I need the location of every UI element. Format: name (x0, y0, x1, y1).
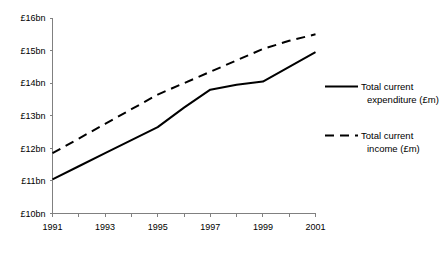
x-tick-label: 2001 (305, 222, 325, 232)
chart-canvas: £10bn£11bn£12bn£13bn£14bn£15bn£16bn 1991… (0, 0, 445, 256)
y-tick-label: £15bn (20, 46, 45, 56)
legend-label-line2: income (£m) (367, 143, 420, 154)
y-tick-label: £10bn (20, 209, 45, 219)
x-tick-label: 1991 (42, 222, 62, 232)
x-axis-ticks: 199119931995199719992001 (42, 214, 325, 232)
legend-label-line1: Total current (361, 130, 414, 141)
x-tick-label: 1993 (95, 222, 115, 232)
legend-label-line2: expenditure (£m) (367, 94, 439, 105)
y-axis-ticks: £10bn£11bn£12bn£13bn£14bn£15bn£16bn (20, 13, 52, 219)
y-tick-label: £12bn (20, 144, 45, 154)
y-tick-label: £13bn (20, 111, 45, 121)
y-tick-label: £14bn (20, 78, 45, 88)
data-series-group (53, 34, 316, 179)
y-axis: £10bn£11bn£12bn£13bn£14bn£15bn£16bn (20, 13, 52, 219)
series-line-income (53, 34, 316, 153)
y-tick-label: £11bn (21, 176, 45, 186)
y-tick-label: £16bn (20, 13, 45, 23)
chart-legend: Total currentexpenditure (£m)Total curre… (325, 81, 439, 154)
x-tick-label: 1999 (253, 222, 273, 232)
line-chart: £10bn£11bn£12bn£13bn£14bn£15bn£16bn 1991… (0, 0, 445, 256)
x-axis: 199119931995199719992001 (42, 214, 325, 232)
series-line-expenditure (53, 52, 316, 179)
legend-label-line1: Total current (361, 81, 414, 92)
x-tick-label: 1997 (200, 222, 220, 232)
x-tick-label: 1995 (148, 222, 168, 232)
